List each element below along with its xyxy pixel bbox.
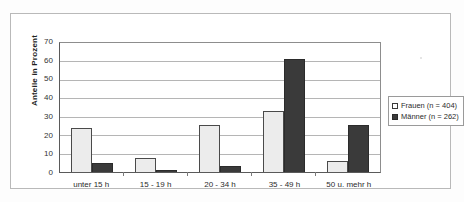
y-tick-label: 0 [31,169,53,177]
legend-label: Männer (n = 262) [401,111,459,122]
bar-group [60,43,124,172]
bar-maenner [220,166,241,172]
bar-frauen [263,111,284,172]
x-tick-label: 20 - 34 h [188,180,252,189]
bar-maenner [284,59,305,172]
x-tick-mark [123,172,124,176]
figure-frame: Anteile in Prozent 70 60 50 40 30 20 10 … [10,13,451,189]
x-tick-label: 35 - 49 h [252,180,316,189]
y-tick-label: 30 [31,113,53,121]
bar-maenner [156,170,177,172]
y-tick-label: 70 [31,38,53,46]
x-tick-label: 15 - 19 h [123,180,187,189]
bar-group [316,43,380,172]
legend-item-maenner: Männer (n = 262) [392,111,459,122]
bar-group [252,43,316,172]
bar-frauen [135,158,156,172]
bar-frauen [71,128,92,172]
x-tick-mark [251,172,252,176]
legend-swatch-icon [392,103,398,109]
x-axis-labels: unter 15 h 15 - 19 h 20 - 34 h 35 - 49 h… [59,180,381,189]
bar-frauen [327,161,348,172]
legend-item-frauen: Frauen (n = 404) [392,100,459,111]
legend-label: Frauen (n = 404) [401,100,457,111]
y-tick-label: 20 [31,132,53,140]
scan-speck [420,57,422,59]
x-tick-mark [315,172,316,176]
bar-group [188,43,252,172]
x-tick-label: unter 15 h [59,180,123,189]
plot-area [59,42,381,173]
y-tick-label: 40 [31,94,53,102]
bar-group [124,43,188,172]
bar-maenner [92,163,113,172]
y-axis-ticks: 70 60 50 40 30 20 10 0 [31,42,55,173]
x-tick-mark [187,172,188,176]
y-tick-label: 50 [31,75,53,83]
y-tick-label: 10 [31,150,53,158]
bar-frauen [199,125,220,172]
chart-legend: Frauen (n = 404) Männer (n = 262) [388,96,464,126]
bar-groups [60,43,380,172]
y-tick-label: 60 [31,57,53,65]
bar-maenner [348,125,369,172]
x-tick-label: 50 u. mehr h [317,180,381,189]
legend-swatch-icon [392,114,398,120]
chart-figure: Anteile in Prozent 70 60 50 40 30 20 10 … [0,0,464,202]
